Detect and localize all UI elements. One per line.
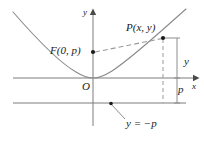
point-p-label: P(x, y) xyxy=(126,22,155,33)
parabola-curve xyxy=(13,9,186,78)
figure-canvas xyxy=(0,0,204,142)
directrix-label: y = −p xyxy=(126,118,157,129)
x-axis-label: x xyxy=(192,82,196,91)
directrix-leader-line xyxy=(111,104,125,119)
point-p-marker xyxy=(161,36,165,40)
directrix-leader-dot xyxy=(109,102,113,106)
vertical-distance-label: y xyxy=(184,56,189,67)
focus-point-marker xyxy=(91,50,95,54)
x-axis xyxy=(13,75,200,81)
y-axis-arrowhead xyxy=(90,9,96,16)
focus-label: F(0, p) xyxy=(50,45,81,56)
y-axis-label: y xyxy=(83,8,87,17)
origin-label: O xyxy=(82,81,90,92)
focal-gap-label: p xyxy=(178,84,184,95)
y-axis xyxy=(90,9,96,127)
parabola-figure: P(x, y) F(0, p) y p O y x y = −p xyxy=(0,0,204,142)
focal-radius-dashed xyxy=(95,39,162,53)
